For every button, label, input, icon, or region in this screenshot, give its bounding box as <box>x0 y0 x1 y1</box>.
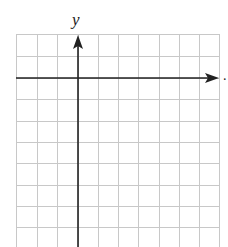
x-axis <box>16 73 219 83</box>
y-axis <box>73 35 83 247</box>
y-axis-label: y <box>72 10 80 30</box>
coordinate-grid <box>0 0 228 247</box>
trailing-mark: . <box>223 68 227 84</box>
grid-lines <box>16 34 220 247</box>
